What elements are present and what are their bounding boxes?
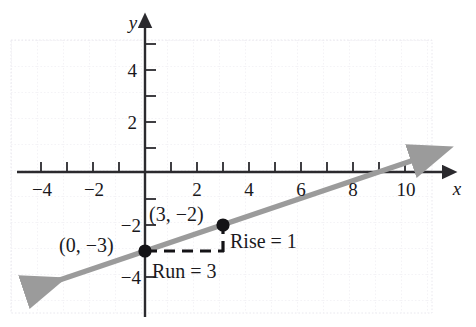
graph-figure: −4 −2 2 4 6 8 10 4 2 −2 −4 y x (0, −3) (… <box>0 0 476 327</box>
y-tick-label: −4 <box>121 267 142 288</box>
point-a-label: (0, −3) <box>59 234 114 257</box>
x-tick-label: 4 <box>244 179 254 200</box>
x-axis-name: x <box>452 178 462 199</box>
x-tick-label: 2 <box>192 179 202 200</box>
y-axis-name: y <box>127 12 138 33</box>
x-tick-label: −2 <box>84 179 104 200</box>
x-tick-label: 10 <box>397 179 416 200</box>
y-tick-label: 4 <box>128 60 138 81</box>
rise-label: Rise = 1 <box>230 230 297 252</box>
coordinate-plane-svg: −4 −2 2 4 6 8 10 4 2 −2 −4 y x (0, −3) (… <box>0 0 476 327</box>
run-label: Run = 3 <box>152 260 217 282</box>
y-tick-label: 2 <box>128 112 138 133</box>
x-tick-label: 8 <box>348 179 358 200</box>
point-b-label: (3, −2) <box>149 203 204 226</box>
point-3-minus2 <box>216 218 229 231</box>
y-tick-label: −2 <box>121 215 141 236</box>
point-0-minus3 <box>138 244 151 257</box>
x-tick-label: −4 <box>32 179 53 200</box>
x-tick-label: 6 <box>296 179 306 200</box>
